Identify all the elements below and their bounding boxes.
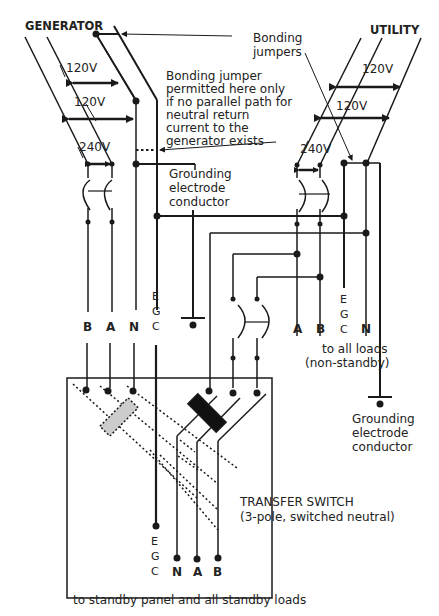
gec-line: conductor xyxy=(352,440,412,454)
util-conductor-a: A xyxy=(293,322,303,336)
util-loads-label: to all loads xyxy=(322,342,388,356)
ts-egc-g: G xyxy=(151,550,160,563)
util-loads-label-2: (non-standby) xyxy=(305,356,390,370)
gen-egc-e: E xyxy=(152,290,159,303)
ts-output-a: A xyxy=(193,565,203,579)
utility-title: UTILITY xyxy=(370,23,420,37)
util-conductor-n: N xyxy=(361,322,371,336)
gec-line: electrode xyxy=(352,426,408,440)
ts-egc-c: C xyxy=(151,565,159,578)
util-voltage-240: 240V xyxy=(300,142,332,156)
ts-egc-e: E xyxy=(151,535,158,548)
bonding-note-line: Bonding jumper xyxy=(166,69,262,83)
gec-line: electrode xyxy=(169,181,225,195)
gec-gen-label: Grounding electrode conductor xyxy=(169,167,232,209)
bonding-jumpers-label: Bonding xyxy=(253,31,302,45)
util-voltage-mid: 120V xyxy=(336,99,368,113)
gen-conductor-b: B xyxy=(83,320,92,334)
gen-egc-c: C xyxy=(152,320,160,333)
gen-voltage-top: 120V xyxy=(66,61,98,75)
util-egc-e: E xyxy=(340,293,347,306)
gen-conductor-n: N xyxy=(129,320,139,334)
footer-caption: to standby panel and all standby loads xyxy=(73,593,306,607)
gec-line: Grounding xyxy=(169,167,232,181)
bonding-note-line: neutral return xyxy=(166,108,249,122)
gec-line: conductor xyxy=(169,195,229,209)
transfer-switch-subtitle: (3-pole, switched neutral) xyxy=(240,510,395,524)
gec-util-label: Grounding electrode conductor xyxy=(352,412,415,454)
bonding-note: Bonding jumper permitted here only if no… xyxy=(166,69,292,148)
bonding-note-line: permitted here only xyxy=(166,82,285,96)
generator-title: GENERATOR xyxy=(25,19,103,33)
generator-breaker xyxy=(83,164,112,222)
ts-output-n: N xyxy=(172,565,182,579)
ts-output-b: B xyxy=(213,565,222,579)
transfer-switch-box xyxy=(67,378,272,598)
gen-egc-g: G xyxy=(152,305,161,318)
gen-voltage-240: 240V xyxy=(79,140,111,154)
gen-voltage-mid: 120V xyxy=(74,95,106,109)
bonding-note-line: if no parallel path for xyxy=(166,95,292,109)
gen-conductor-a: A xyxy=(106,320,116,334)
util-egc-g: G xyxy=(340,308,349,321)
transfer-switch-diagram: GENERATOR UTILITY 120V 120V 240V 120V 12… xyxy=(0,0,439,616)
util-conductor-b: B xyxy=(316,322,325,336)
util-voltage-top: 120V xyxy=(362,62,394,76)
util-egc-c: C xyxy=(340,323,348,336)
bonding-jumpers-label-2: jumpers xyxy=(252,45,302,59)
gec-line: Grounding xyxy=(352,412,415,426)
bonding-note-line: current to the xyxy=(166,121,249,135)
transfer-switch-title: TRANSFER SWITCH xyxy=(239,495,354,509)
bonding-note-line: generator exists xyxy=(166,134,264,148)
